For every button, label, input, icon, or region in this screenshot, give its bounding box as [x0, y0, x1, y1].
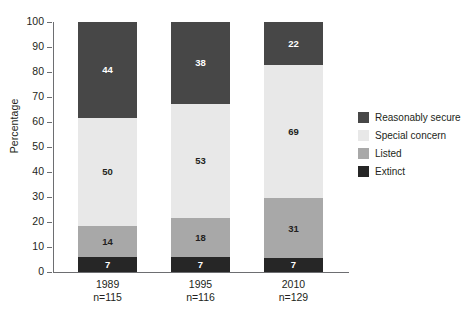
legend-swatch: [358, 148, 369, 159]
y-tick-label: 70: [0, 90, 44, 102]
y-tick-mark: [47, 247, 52, 248]
bar-segment-value: 14: [102, 237, 113, 247]
x-axis-line: [53, 272, 349, 273]
bar-segment: 31: [264, 198, 323, 258]
bar-1989: 4450147: [78, 22, 137, 272]
bar-segment: 53: [171, 104, 230, 218]
legend-item: Listed: [358, 144, 468, 162]
legend-swatch: [358, 112, 369, 123]
bar-2010: 2269317: [264, 22, 323, 272]
bar-segment-value: 7: [291, 260, 296, 270]
y-tick-mark: [47, 47, 52, 48]
stacked-bar-chart: Percentage 1009080706050403020100 445014…: [0, 0, 468, 313]
bar-segment-value: 22: [288, 39, 299, 49]
y-tick-label: 40: [0, 165, 44, 177]
legend-label: Special concern: [375, 130, 446, 141]
bar-segment-value: 50: [102, 167, 113, 177]
y-tick-mark: [47, 272, 52, 273]
y-tick-label: 100: [0, 15, 44, 27]
bar-segment: 22: [264, 22, 323, 65]
y-tick-label: 90: [0, 40, 44, 52]
bar-segment-value: 18: [195, 233, 206, 243]
bar-segment: 44: [78, 22, 137, 118]
chart-legend: Reasonably secureSpecial concernListedEx…: [358, 108, 468, 180]
y-tick-label: 0: [0, 265, 44, 277]
bar-segment: 14: [78, 226, 137, 256]
bar-segment: 69: [264, 65, 323, 199]
bar-segment-value: 69: [288, 127, 299, 137]
bar-segment: 7: [264, 258, 323, 272]
bar-segment: 50: [78, 118, 137, 227]
y-tick-label: 20: [0, 215, 44, 227]
y-tick-label: 30: [0, 190, 44, 202]
legend-label: Extinct: [375, 166, 405, 177]
y-tick-mark: [47, 147, 52, 148]
legend-label: Reasonably secure: [375, 112, 461, 123]
y-tick-mark: [47, 222, 52, 223]
bar-segment-value: 44: [102, 65, 113, 75]
y-tick-mark: [47, 97, 52, 98]
legend-item: Special concern: [358, 126, 468, 144]
bar-segment-value: 7: [105, 260, 110, 270]
x-label-category: 2010: [238, 278, 348, 291]
y-tick-label: 50: [0, 140, 44, 152]
bar-segment-value: 38: [195, 58, 206, 68]
legend-item: Extinct: [358, 162, 468, 180]
y-tick-label: 80: [0, 65, 44, 77]
y-tick-label: 10: [0, 240, 44, 252]
legend-label: Listed: [375, 148, 402, 159]
y-tick-mark: [47, 22, 52, 23]
y-tick-mark: [47, 72, 52, 73]
x-label-sample-size: n=129: [238, 291, 348, 304]
bar-segment: 18: [171, 218, 230, 257]
y-tick-mark: [47, 172, 52, 173]
y-tick-mark: [47, 197, 52, 198]
x-label-group: 2010n=129: [238, 278, 348, 304]
y-tick-mark: [47, 122, 52, 123]
bar-segment-value: 31: [288, 224, 299, 234]
bar-segment: 7: [171, 257, 230, 272]
plot-area: 445014738531872269317: [53, 22, 348, 272]
bar-segment-value: 7: [198, 260, 203, 270]
legend-item: Reasonably secure: [358, 108, 468, 126]
bar-1995: 3853187: [171, 22, 230, 272]
legend-swatch: [358, 166, 369, 177]
bar-segment: 38: [171, 22, 230, 104]
bar-segment: 7: [78, 257, 137, 272]
bar-segment-value: 53: [195, 156, 206, 166]
legend-swatch: [358, 130, 369, 141]
y-tick-label: 60: [0, 115, 44, 127]
